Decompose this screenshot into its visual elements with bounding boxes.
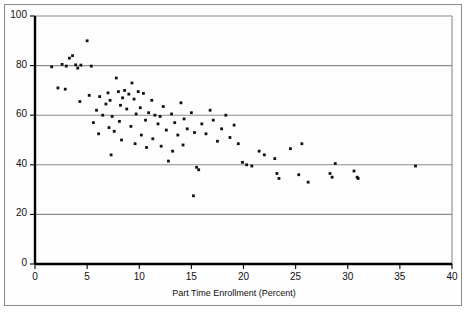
x-tick-label-25: 25 — [281, 271, 311, 282]
data-point — [209, 109, 212, 112]
data-point — [192, 194, 195, 197]
data-point — [200, 122, 203, 125]
data-point — [76, 67, 79, 70]
data-point — [216, 140, 219, 143]
x-tick-label-40: 40 — [437, 271, 467, 282]
data-point — [119, 104, 122, 107]
data-point — [65, 65, 68, 68]
x-tick-label-0: 0 — [20, 271, 50, 282]
data-point — [220, 127, 223, 130]
data-point — [170, 113, 173, 116]
x-tick-label-20: 20 — [229, 271, 259, 282]
data-point — [353, 170, 356, 173]
data-point — [79, 64, 82, 67]
data-point — [139, 106, 142, 109]
data-point — [134, 142, 137, 145]
data-point — [278, 177, 281, 180]
data-point — [173, 121, 176, 124]
data-point — [241, 161, 244, 164]
y-tick-label-60: 60 — [0, 108, 27, 119]
x-tick-label-5: 5 — [72, 271, 102, 282]
data-point — [71, 54, 74, 57]
data-point — [113, 130, 116, 133]
data-point — [190, 111, 193, 114]
data-point — [109, 99, 112, 102]
data-point — [180, 101, 183, 104]
data-point — [224, 114, 227, 117]
data-point — [165, 129, 168, 132]
x-tick-label-15: 15 — [176, 271, 206, 282]
data-point — [297, 173, 300, 176]
data-point — [329, 172, 332, 175]
data-point — [108, 126, 111, 129]
y-tick-label-100: 100 — [0, 9, 27, 20]
data-point — [334, 162, 337, 165]
data-point — [212, 119, 215, 122]
data-point — [157, 122, 160, 125]
x-tick-label-35: 35 — [385, 271, 415, 282]
data-point — [86, 39, 89, 42]
data-point — [160, 145, 163, 148]
data-point — [130, 125, 133, 128]
x-tick-label-10: 10 — [124, 271, 154, 282]
data-point — [88, 94, 91, 97]
data-point — [50, 65, 53, 68]
data-point — [68, 57, 71, 60]
data-point — [233, 124, 236, 127]
data-point — [127, 93, 130, 96]
data-point — [153, 114, 156, 117]
data-point — [97, 132, 100, 135]
data-point — [78, 100, 81, 103]
data-point — [237, 142, 240, 145]
data-point — [258, 150, 261, 153]
data-point — [147, 111, 150, 114]
data-point — [195, 166, 198, 169]
data-point — [115, 77, 118, 80]
data-point — [167, 160, 170, 163]
data-point — [137, 90, 140, 93]
data-point — [92, 121, 95, 124]
y-tick-label-80: 80 — [0, 59, 27, 70]
data-point — [64, 88, 67, 91]
data-point — [182, 144, 185, 147]
data-point — [263, 153, 266, 156]
data-point — [120, 139, 123, 142]
data-point — [275, 172, 278, 175]
data-point — [273, 157, 276, 160]
y-tick-label-20: 20 — [0, 207, 27, 218]
data-point — [245, 163, 248, 166]
data-point — [125, 108, 128, 111]
data-point — [57, 87, 60, 90]
data-point — [151, 137, 154, 140]
data-point — [289, 147, 292, 150]
data-point — [414, 165, 417, 168]
data-point — [186, 127, 189, 130]
data-point — [197, 168, 200, 171]
data-point — [111, 115, 114, 118]
data-point — [162, 105, 165, 108]
data-point — [144, 119, 147, 122]
data-point — [135, 113, 138, 116]
scatter-plot — [0, 0, 468, 312]
data-point — [176, 134, 179, 137]
data-point — [307, 181, 310, 184]
data-point — [331, 176, 334, 179]
data-point — [142, 92, 145, 95]
data-point — [133, 98, 136, 101]
data-point — [117, 90, 120, 93]
data-point — [205, 132, 208, 135]
y-tick-label-0: 0 — [0, 257, 27, 268]
data-point — [118, 120, 121, 123]
x-axis-title: Part Time Enrollment (Percent) — [0, 288, 468, 298]
data-point — [131, 82, 134, 85]
data-points — [50, 39, 417, 197]
data-point — [123, 89, 126, 92]
data-point — [74, 63, 77, 66]
data-point — [183, 118, 186, 121]
data-point — [110, 153, 113, 156]
data-point — [107, 91, 110, 94]
data-point — [145, 146, 148, 149]
data-point — [90, 65, 93, 68]
data-point — [61, 63, 64, 66]
data-point — [95, 109, 98, 112]
